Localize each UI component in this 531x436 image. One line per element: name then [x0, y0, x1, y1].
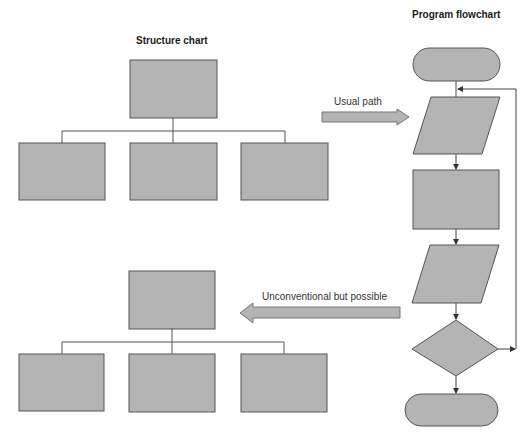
parent-module-box [130, 60, 217, 118]
decision-diamond [412, 320, 498, 376]
program-flowchart [405, 48, 500, 426]
child-module-box [129, 354, 215, 412]
child-module-box [241, 354, 327, 412]
end-terminal [405, 394, 498, 426]
start-terminal [413, 48, 500, 81]
structure-connectors-bottom [62, 329, 284, 354]
diagram-canvas [0, 0, 531, 436]
input-output-parallelogram [413, 97, 500, 154]
child-module-box [130, 143, 217, 200]
child-module-box [19, 354, 104, 411]
structure-connectors-top [62, 118, 285, 143]
parent-module-box [129, 271, 215, 329]
usual-path-arrow [322, 109, 409, 125]
child-module-box [19, 143, 105, 200]
process-box [413, 170, 499, 229]
child-module-box [241, 143, 328, 200]
input-output-parallelogram [412, 245, 499, 303]
unconventional-arrow [240, 303, 400, 323]
